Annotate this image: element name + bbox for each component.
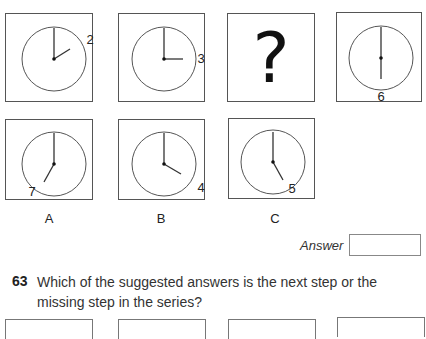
answer-input[interactable]	[349, 234, 421, 256]
series-step-4: 6	[336, 12, 422, 102]
series-step-1: 2	[5, 13, 93, 102]
hour-label: 2	[80, 32, 100, 47]
hour-label: 4	[191, 180, 211, 195]
clock-icon	[6, 120, 94, 201]
option-b[interactable]: 4	[118, 119, 205, 200]
option-c[interactable]: 5	[228, 118, 315, 199]
option-a[interactable]: 7	[5, 119, 93, 200]
series-step-2: 3	[118, 13, 205, 102]
answer-label: Answer	[300, 238, 343, 253]
question-mark-icon: ?	[228, 14, 314, 101]
hour-label: 3	[191, 51, 211, 66]
option-a-label: A	[39, 211, 59, 226]
option-c-label: C	[265, 211, 285, 226]
hour-label: 6	[371, 89, 391, 104]
next-question-box-3	[228, 319, 316, 339]
next-question-box-4	[337, 317, 425, 337]
clock-icon	[6, 14, 94, 103]
clock-icon	[229, 119, 316, 200]
hour-label: 7	[22, 184, 42, 199]
next-question-box-1	[5, 319, 93, 339]
hour-label: 5	[282, 181, 302, 196]
question-text: Which of the suggested answers is the ne…	[37, 272, 423, 312]
next-question-box-2	[118, 319, 206, 339]
question-number: 63	[12, 273, 28, 289]
series-step-missing: ?	[227, 13, 315, 102]
option-b-label: B	[151, 211, 171, 226]
